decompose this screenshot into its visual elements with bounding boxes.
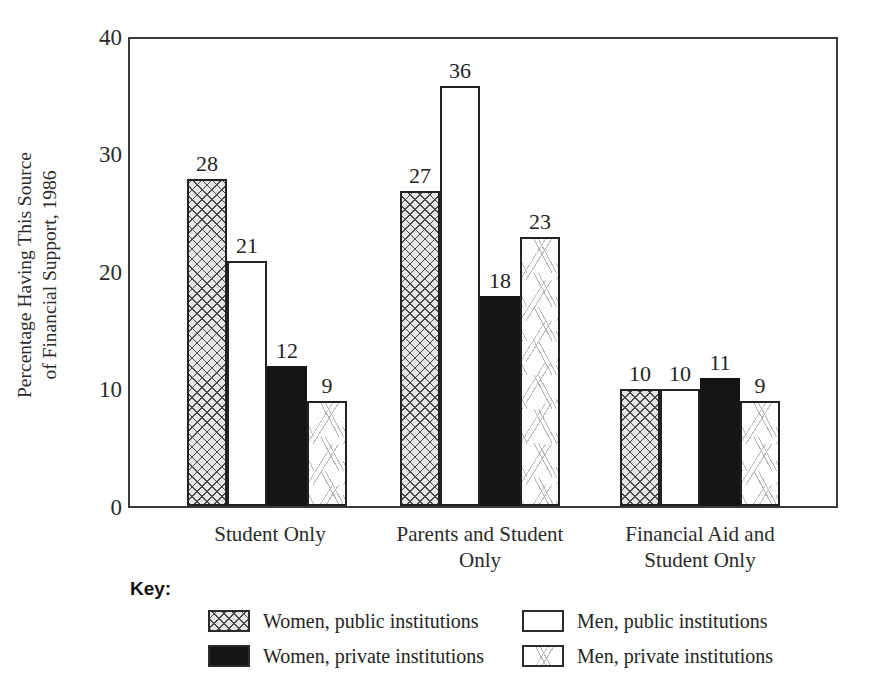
bar-1-0 [400,191,440,506]
category-label-financial-aid-and-student-only: Financial Aid and Student Only [600,521,800,573]
bar-value-label-0-1: 21 [221,235,273,257]
legend-column-women: Women, public institutions Women, privat… [208,605,484,675]
legend-label-men-public: Men, public institutions [577,611,768,631]
bar-0-0 [187,179,227,506]
legend-item-men-public[interactable]: Men, public institutions [522,605,773,636]
legend-item-women-public[interactable]: Women, public institutions [208,605,484,636]
legend-title: Key: [130,578,171,600]
bar-0-1 [227,261,267,506]
y-axis-title-line-2: of Financial Support, 1986 [37,75,62,475]
legend-label-men-private: Men, private institutions [577,646,773,666]
bar-chart: Percentage Having This Sourceof Financia… [0,0,878,697]
legend-column-men: Men, public institutions Men, private in… [522,605,773,675]
y-tick-label-20: 20 [76,261,122,284]
bar-1-2 [480,296,520,506]
bar-0-3 [307,401,347,506]
bar-1-1 [440,86,480,506]
legend-label-women-public: Women, public institutions [263,611,479,631]
y-axis-title-line-1: Percentage Having This Source [12,75,37,475]
legend-swatch-dashes-icon [522,645,564,667]
category-label-student-only: Student Only [170,521,370,547]
legend-item-women-private[interactable]: Women, private institutions [208,640,484,671]
bar-value-label-1-2: 18 [474,270,526,292]
y-tick-label-10: 10 [76,378,122,401]
y-tick-label-0: 0 [76,496,122,519]
y-tick-label-40: 40 [76,26,122,49]
y-tick-label-30: 30 [76,143,122,166]
bar-2-3 [740,401,780,506]
legend-item-men-private[interactable]: Men, private institutions [522,640,773,671]
bar-2-0 [620,389,660,506]
bar-2-1 [660,389,700,506]
bar-value-label-0-2: 12 [261,340,313,362]
y-axis-tick-labels: 40 30 20 10 0 [68,0,122,697]
bar-value-label-0-3: 9 [301,375,353,397]
bar-value-label-2-2: 11 [694,352,746,374]
legend-label-women-private: Women, private institutions [263,646,484,666]
bar-1-3 [520,237,560,506]
legend-swatch-crosshatch-icon [208,610,250,632]
plot-area: 2821129273618231010119 [128,37,838,508]
legend-swatch-white-icon [522,610,564,632]
y-axis-title: Percentage Having This Sourceof Financia… [12,75,62,475]
bar-value-label-1-3: 23 [514,211,566,233]
bar-value-label-0-0: 28 [181,153,233,175]
bar-value-label-2-3: 9 [734,375,786,397]
category-label-parents-and-student-only: Parents and Student Only [380,521,580,573]
bar-value-label-1-1: 36 [434,60,486,82]
legend-swatch-solid-black-icon [208,645,250,667]
bar-value-label-1-0: 27 [394,165,446,187]
